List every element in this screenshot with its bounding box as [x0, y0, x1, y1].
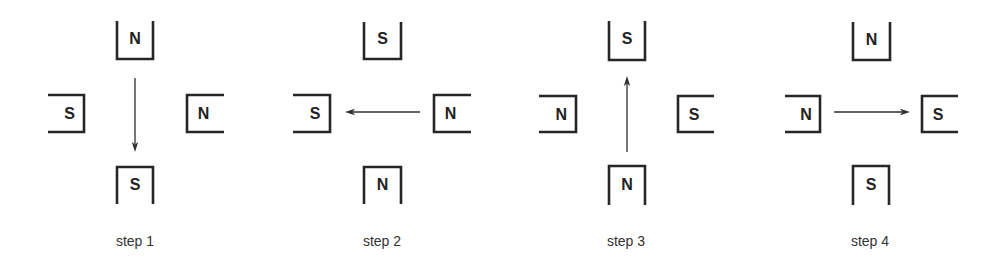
step-label: step 3: [607, 233, 645, 249]
magnet-top-pole-label: S: [622, 30, 633, 47]
step-label: step 1: [116, 233, 154, 249]
magnet-top-pole-label: N: [866, 31, 878, 48]
step-label: step 4: [851, 233, 889, 249]
stepper-field-diagram: N S N S step 1 S S N N step 2 S N S N st…: [0, 0, 1006, 266]
step-1-group: N S N S step 1: [48, 21, 224, 249]
magnet-right-pole-label: S: [933, 106, 944, 123]
magnet-right-pole-label: N: [198, 105, 210, 122]
step-3-group: S N S N step 3: [539, 21, 714, 249]
magnet-top-pole-label: S: [377, 30, 388, 47]
magnet-bottom-pole-label: S: [130, 176, 141, 193]
magnet-right-pole-label: S: [689, 106, 700, 123]
magnet-left-pole-label: N: [555, 106, 567, 123]
magnet-top-pole-label: N: [129, 30, 141, 47]
step-4-group: N N S S step 4: [785, 22, 958, 249]
magnet-right-pole-label: N: [445, 105, 457, 122]
magnet-bottom-pole-label: N: [621, 176, 633, 193]
step-2-group: S S N N step 2: [293, 22, 471, 249]
magnet-bottom-pole-label: S: [866, 176, 877, 193]
magnet-left-pole-label: S: [64, 105, 75, 122]
step-label: step 2: [363, 233, 401, 249]
magnet-bottom-pole-label: N: [377, 176, 389, 193]
magnet-left-pole-label: N: [800, 106, 812, 123]
magnet-left-pole-label: S: [310, 105, 321, 122]
